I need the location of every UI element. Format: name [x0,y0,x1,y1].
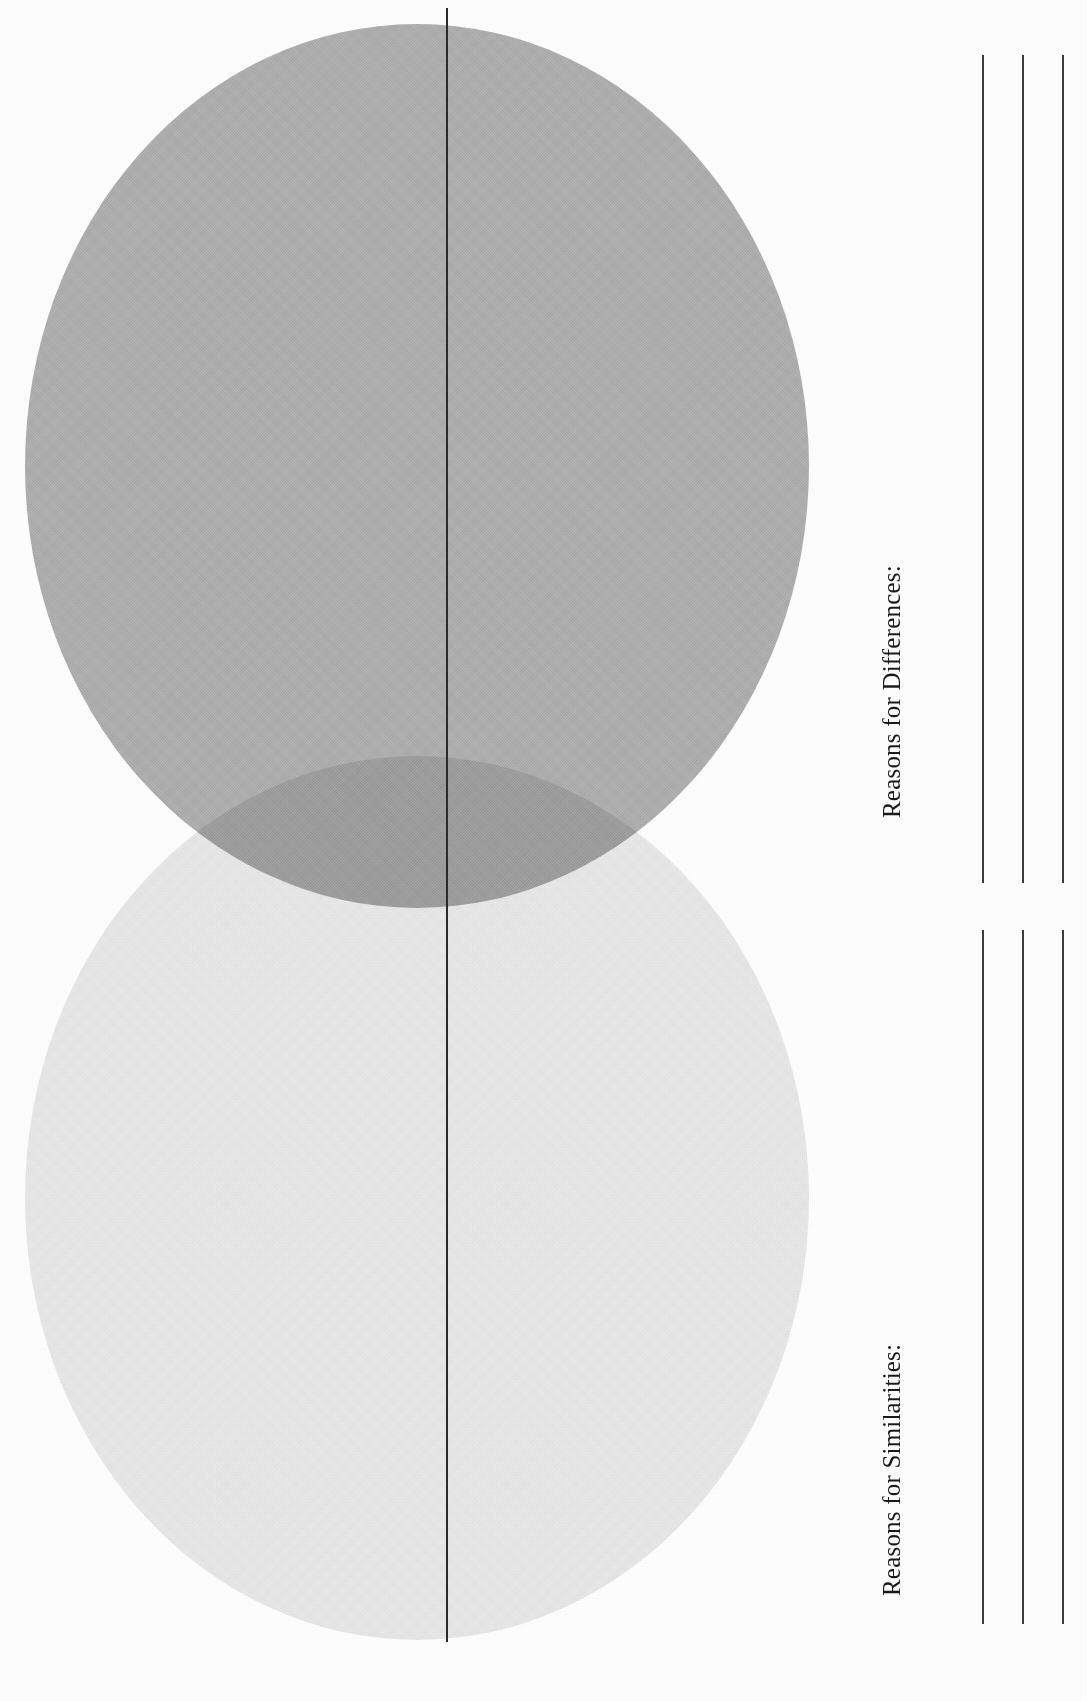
writing-line[interactable] [1022,930,1024,1624]
venn-diagram [0,0,830,1701]
writing-line[interactable] [1022,55,1024,883]
venn-circle-bottom[interactable] [25,756,809,1640]
writing-panel: Reasons for Differences: Reasons for Sim… [830,0,1087,1701]
writing-line[interactable] [1062,55,1064,883]
label-reasons-for-similarities: Reasons for Similarities: [878,1344,906,1596]
writing-line[interactable] [982,930,984,1624]
label-reasons-for-differences: Reasons for Differences: [878,565,906,818]
center-divider-line [446,8,448,1642]
worksheet-page: Reasons for Differences: Reasons for Sim… [0,0,1087,1701]
writing-line[interactable] [1062,930,1064,1624]
writing-line[interactable] [982,55,984,883]
